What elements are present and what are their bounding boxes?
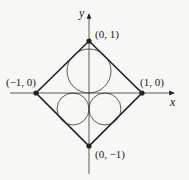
vertex-top-label: (0, 1) bbox=[95, 28, 119, 41]
vertex-left-point bbox=[33, 90, 38, 95]
small-circle-right bbox=[89, 93, 121, 125]
y-axis-label: y bbox=[78, 6, 85, 20]
diagram-canvas: x y (0, 1) (1, 0) (0, −1) (−1, 0) bbox=[0, 0, 189, 180]
vertex-right-point bbox=[139, 90, 144, 95]
vertex-right-label: (1, 0) bbox=[140, 76, 164, 89]
vertex-bottom-point bbox=[86, 143, 91, 148]
vertex-top-point bbox=[86, 38, 91, 43]
x-axis-label: x bbox=[169, 95, 176, 109]
vertex-bottom-label: (0, −1) bbox=[95, 148, 125, 161]
vertex-left-label: (−1, 0) bbox=[6, 76, 36, 89]
small-circle-left bbox=[57, 93, 89, 125]
